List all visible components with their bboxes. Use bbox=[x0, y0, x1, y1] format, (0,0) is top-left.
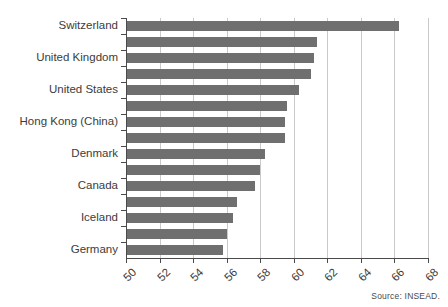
bar bbox=[126, 245, 223, 255]
y-axis-line bbox=[126, 18, 127, 259]
x-axis-line bbox=[126, 258, 428, 259]
bar bbox=[126, 117, 285, 127]
x-tick-60 bbox=[294, 258, 295, 263]
x-tick-label-52: 52 bbox=[132, 266, 172, 306]
y-axis-label-hong-kong-china: Hong Kong (China) bbox=[0, 116, 118, 128]
gridline-x-66 bbox=[394, 18, 395, 258]
y-axis-label-united-kingdom: United Kingdom bbox=[0, 52, 118, 64]
bar bbox=[126, 69, 311, 79]
y-axis-label-iceland: Iceland bbox=[0, 212, 118, 224]
x-tick-label-62: 62 bbox=[300, 266, 340, 306]
bar bbox=[126, 37, 317, 47]
y-axis-label-denmark: Denmark bbox=[0, 148, 118, 160]
x-tick-64 bbox=[361, 258, 362, 263]
bar-chart: Source: INSEAD. 50525456586062646668Swit… bbox=[0, 0, 448, 307]
x-tick-54 bbox=[193, 258, 194, 263]
y-axis-label-germany: Germany bbox=[0, 244, 118, 256]
x-tick-label-54: 54 bbox=[166, 266, 206, 306]
x-tick-label-58: 58 bbox=[233, 266, 273, 306]
gridline-x-62 bbox=[327, 18, 328, 258]
x-tick-label-64: 64 bbox=[334, 266, 374, 306]
bar bbox=[126, 181, 255, 191]
x-tick-62 bbox=[327, 258, 328, 263]
x-tick-label-56: 56 bbox=[200, 266, 240, 306]
x-tick-52 bbox=[160, 258, 161, 263]
bar bbox=[126, 229, 227, 239]
y-axis-label-canada: Canada bbox=[0, 180, 118, 192]
y-axis-label-united-states: United States bbox=[0, 84, 118, 96]
x-tick-66 bbox=[394, 258, 395, 263]
x-tick-label-50: 50 bbox=[99, 266, 139, 306]
bar bbox=[126, 165, 260, 175]
gridline-x-64 bbox=[361, 18, 362, 258]
x-tick-label-60: 60 bbox=[267, 266, 307, 306]
bar bbox=[126, 213, 233, 223]
bar bbox=[126, 21, 399, 31]
x-tick-56 bbox=[227, 258, 228, 263]
x-tick-58 bbox=[260, 258, 261, 263]
bar bbox=[126, 85, 299, 95]
bar bbox=[126, 53, 314, 63]
x-tick-50 bbox=[126, 258, 127, 263]
bar bbox=[126, 101, 287, 111]
bar bbox=[126, 133, 285, 143]
bar bbox=[126, 197, 237, 207]
y-axis-label-switzerland: Switzerland bbox=[0, 20, 118, 32]
gridline-x-68 bbox=[428, 18, 429, 258]
x-tick-68 bbox=[428, 258, 429, 263]
bar bbox=[126, 149, 265, 159]
plot-area bbox=[126, 18, 428, 258]
